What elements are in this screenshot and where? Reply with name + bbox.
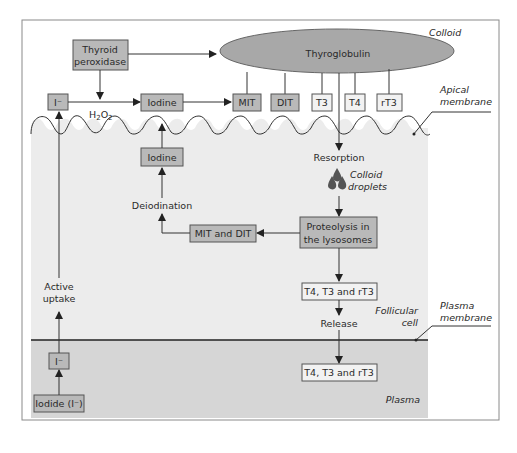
iodide-ion-colloid-label: I⁻ — [54, 97, 62, 108]
active-uptake-label-2: uptake — [43, 293, 76, 304]
apical-membrane-leader-dot — [413, 133, 416, 136]
proteolysis-label-1: Proteolysis in — [307, 221, 370, 232]
follicular-cell-label-2: cell — [402, 317, 419, 328]
apical-membrane-label-2: membrane — [440, 96, 492, 107]
plasma-membrane-label-2: membrane — [440, 312, 492, 323]
t4-t3-rt3-cell-label: T4, T3 and rT3 — [303, 286, 373, 297]
iodide-ion-plasma-label: I⁻ — [55, 356, 63, 367]
dit-label: DIT — [277, 97, 293, 108]
iodine-colloid-label: Iodine — [147, 97, 176, 108]
thyroglobulin-label: Thyroglobulin — [305, 48, 371, 59]
follicular-cell-label-1: Follicular — [375, 305, 419, 316]
release-label: Release — [320, 318, 357, 329]
deiodination-label: Deiodination — [132, 200, 192, 211]
thyroid-peroxidase-label-1: Thyroid — [81, 44, 118, 55]
iodine-cell-label: Iodine — [147, 152, 176, 163]
t4-t3-rt3-plasma-label: T4, T3 and rT3 — [303, 367, 373, 378]
plasma-label: Plasma — [386, 394, 420, 405]
apical-membrane-label-1: Apical — [439, 84, 469, 95]
thyroid-peroxidase-label-2: peroxidase — [74, 56, 126, 67]
mit-and-dit-label: MIT and DIT — [195, 228, 252, 239]
rt3-label: rT3 — [381, 97, 397, 108]
plasma-membrane-label-1: Plasma — [440, 300, 474, 311]
active-uptake-label-1: Active — [44, 281, 74, 292]
plasma-membrane-leader-dot — [415, 339, 418, 342]
proteolysis-label-2: the lysosomes — [304, 234, 372, 245]
mit-label: MIT — [239, 97, 256, 108]
t3-label: T3 — [315, 97, 328, 108]
colloid-droplets-label-1: Colloid — [350, 169, 383, 180]
iodide-plasma-label: Iodide (I⁻) — [35, 398, 82, 409]
colloid-droplets-label-2: droplets — [348, 181, 387, 192]
thyroid-hormone-diagram: Thyroglobulin Colloid Thyroid peroxidase… — [0, 0, 517, 453]
t4-label: T4 — [348, 97, 361, 108]
colloid-label: Colloid — [429, 27, 462, 38]
resorption-label: Resorption — [314, 152, 365, 163]
